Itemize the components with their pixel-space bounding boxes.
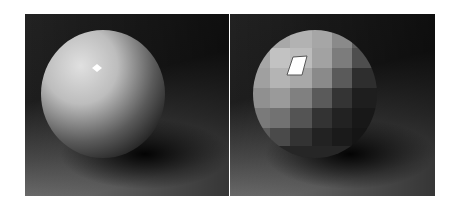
faceted-sphere-render (230, 14, 435, 196)
smooth-sphere-render (25, 14, 229, 196)
sphere (41, 30, 165, 158)
smooth-sphere-image (25, 14, 229, 196)
faceted-sphere-image (230, 14, 435, 196)
